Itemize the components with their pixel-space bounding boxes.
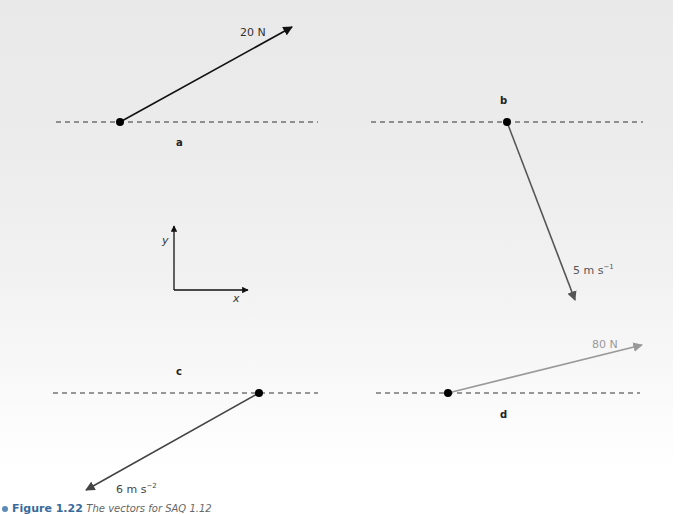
vector-label-d: 80 N <box>592 338 618 351</box>
vector-arrow-c <box>86 393 259 490</box>
vector-arrow-b <box>507 122 575 300</box>
panel-c: c 6 m s−2 <box>53 366 318 496</box>
vector-arrow-d <box>448 345 642 393</box>
diagram-background: 20 N a b 5 m s−1 y x c 6 m s−2 <box>0 0 673 514</box>
caption-bullet-icon <box>2 506 8 512</box>
axes-key: y x <box>161 226 248 305</box>
caption-text: The vectors for SAQ 1.12 <box>86 503 211 514</box>
vector-diagram: 20 N a b 5 m s−1 y x c 6 m s−2 <box>0 0 673 514</box>
origin-point-b <box>503 118 511 126</box>
panel-label-c: c <box>176 366 182 377</box>
y-axis-label: y <box>161 234 169 247</box>
panel-label-d: d <box>500 409 507 420</box>
panel-d: 80 N d <box>376 338 642 420</box>
origin-point-a <box>116 118 124 126</box>
vector-label-c: 6 m s−2 <box>116 482 157 496</box>
origin-point-c <box>255 389 263 397</box>
panel-b: b 5 m s−1 <box>371 95 643 300</box>
vector-label-a: 20 N <box>240 26 266 39</box>
figure-caption: Figure 1.22 The vectors for SAQ 1.12 <box>2 500 212 514</box>
panel-a: 20 N a <box>56 26 318 148</box>
panel-label-b: b <box>500 95 507 106</box>
panel-label-a: a <box>176 137 183 148</box>
origin-point-d <box>444 389 452 397</box>
x-axis-label: x <box>232 292 240 305</box>
vector-label-b: 5 m s−1 <box>573 263 614 277</box>
vector-arrow-a <box>120 27 292 122</box>
figure-number: Figure 1.22 <box>12 502 83 514</box>
